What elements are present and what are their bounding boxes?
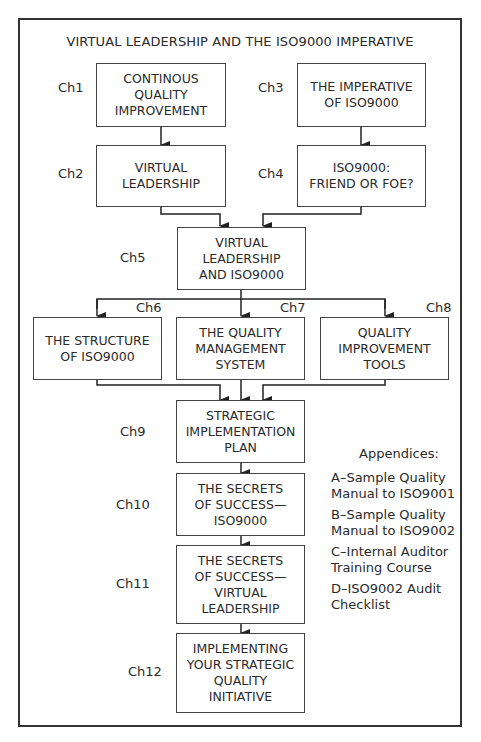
chapter-box-1: CONTINOUS QUALITY IMPROVEMENT <box>96 63 226 127</box>
chapter-box-3: THE IMPERATIVE OF ISO9000 <box>297 63 426 127</box>
chapter-label-2: Ch2 <box>58 166 84 181</box>
chapter-label-10: Ch10 <box>116 497 150 512</box>
chapter-box-2: VIRTUAL LEADERSHIP <box>96 145 226 207</box>
chapter-label-7: Ch7 <box>280 300 306 315</box>
chapter-box-9: STRATEGIC IMPLEMENTATION PLAN <box>176 400 305 463</box>
chapter-box-11: THE SECRETS OF SUCCESS— VIRTUAL LEADERSH… <box>176 545 305 624</box>
chapter-box-12: IMPLEMENTING YOUR STRATEGIC QUALITY INIT… <box>176 633 305 713</box>
appendices-heading: Appendices: <box>359 446 439 462</box>
appendix-b: B–Sample Quality Manual to ISO9002 <box>331 507 455 539</box>
chapter-label-6: Ch6 <box>136 300 162 315</box>
chapter-box-7: THE QUALITY MANAGEMENT SYSTEM <box>176 317 305 380</box>
appendix-c: C–Internal Auditor Training Course <box>331 544 448 576</box>
appendix-a: A–Sample Quality Manual to ISO9001 <box>331 470 455 502</box>
appendix-d: D–ISO9002 Audit Checklist <box>331 581 441 613</box>
chapter-box-8: QUALITY IMPROVEMENT TOOLS <box>320 317 449 380</box>
chapter-box-10: THE SECRETS OF SUCCESS— ISO9000 <box>176 473 305 536</box>
chapter-label-3: Ch3 <box>258 80 284 95</box>
chapter-label-5: Ch5 <box>120 250 146 265</box>
chapter-box-6: THE STRUCTURE OF ISO9000 <box>33 317 162 380</box>
chapter-box-4: ISO9000: FRIEND OR FOE? <box>297 145 426 207</box>
chapter-box-5: VIRTUAL LEADERSHIP AND ISO9000 <box>177 227 306 290</box>
chapter-label-8: Ch8 <box>426 300 452 315</box>
chapter-label-9: Ch9 <box>120 424 146 439</box>
chapter-label-4: Ch4 <box>258 166 284 181</box>
chapter-label-11: Ch11 <box>116 576 150 591</box>
chapter-label-1: Ch1 <box>58 80 84 95</box>
chapter-label-12: Ch12 <box>128 664 162 679</box>
